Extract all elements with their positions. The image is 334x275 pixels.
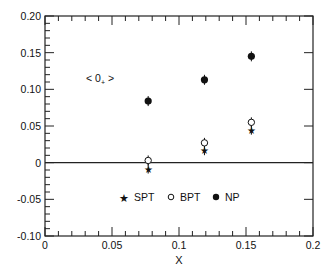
x-tick-label: 0.05 bbox=[102, 239, 123, 251]
x-tick-label: 0.15 bbox=[236, 239, 257, 251]
x-tick-label: 0.1 bbox=[172, 239, 187, 251]
bpt-point bbox=[201, 140, 207, 146]
bpt-point bbox=[145, 157, 151, 163]
y-tick-label: 0.15 bbox=[21, 47, 42, 59]
x-tick-labels: 00.050.10.150.2 bbox=[42, 239, 320, 251]
filled-circle-icon bbox=[213, 194, 219, 200]
bpt-point bbox=[248, 119, 254, 125]
x-tick-label: 0.2 bbox=[306, 239, 321, 251]
legend-bpt: BPT bbox=[180, 191, 201, 203]
np-point bbox=[201, 76, 208, 83]
y-tick-label: 0.10 bbox=[21, 83, 42, 95]
legend: ★ SPT BPT NP bbox=[119, 191, 240, 204]
y-tick-label: -0.10 bbox=[17, 230, 41, 242]
data-points: ★★★ bbox=[144, 51, 256, 174]
legend-np: NP bbox=[225, 191, 240, 203]
np-point bbox=[145, 97, 152, 104]
x-axis-label: X bbox=[175, 254, 183, 266]
legend-spt: SPT bbox=[134, 191, 155, 203]
y-tick-labels: 0.200.150.100.050-0.05-0.10 bbox=[17, 10, 41, 242]
np-point bbox=[248, 53, 255, 60]
x-tick-label: 0 bbox=[42, 239, 48, 251]
axis-ticks bbox=[45, 16, 313, 236]
star-icon: ★ bbox=[119, 192, 129, 204]
scatter-chart: 0.200.150.100.050-0.05-0.10 00.050.10.15… bbox=[0, 0, 334, 275]
y-tick-label: 0 bbox=[35, 157, 41, 169]
plot-frame bbox=[45, 16, 313, 236]
y-tick-label: -0.05 bbox=[17, 193, 41, 205]
annotation-label: < 0+ > bbox=[86, 72, 114, 86]
open-circle-icon bbox=[168, 194, 174, 200]
y-tick-label: 0.20 bbox=[21, 10, 42, 22]
y-tick-label: 0.05 bbox=[21, 120, 42, 132]
